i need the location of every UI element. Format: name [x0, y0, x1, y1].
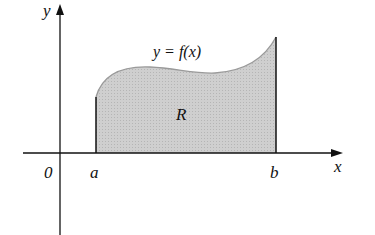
- region-label: R: [175, 105, 187, 124]
- curve-label: y = f(x): [151, 43, 201, 61]
- x-axis-arrow-icon: [331, 149, 343, 157]
- bound-label-b: b: [270, 163, 279, 182]
- x-axis-label: x: [333, 157, 342, 176]
- area-under-curve-diagram: y x 0 a b y = f(x) R: [0, 0, 375, 235]
- y-axis-label: y: [41, 1, 51, 20]
- diagram-canvas: y x 0 a b y = f(x) R: [0, 0, 375, 235]
- y-axis-arrow-icon: [56, 4, 64, 15]
- origin-label: 0: [44, 163, 53, 182]
- bound-label-a: a: [90, 163, 99, 182]
